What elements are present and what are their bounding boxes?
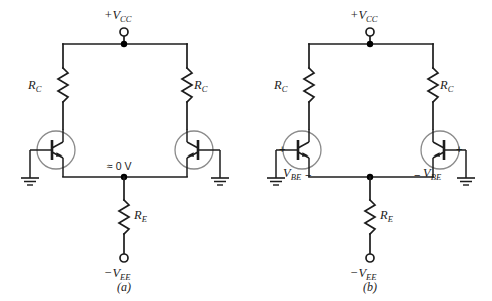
circuit-schematic-svg [0,0,492,301]
circuit-b-group [267,28,475,262]
vee-terminal-b [366,254,374,262]
resistor-re-a [119,200,129,234]
q1-collector-slant-b [298,142,309,148]
resistor-rc-left-b [304,68,314,102]
vbe-left-label-b: VBE [283,167,301,180]
q2-emitter-arrow-b [433,152,439,157]
ground-right-a [211,150,229,185]
polarity-plus-right-b: + [456,144,462,155]
vcc-terminal-a [120,28,128,36]
vee-label-b: −VEE [350,267,377,280]
rc-right-label-a: RC [194,79,207,92]
q2-emitter-arrow-a [187,152,193,157]
q2-collector-slant-a [187,142,198,148]
resistor-rc-right-b [428,68,438,102]
rc-left-label-b: RC [274,79,287,92]
figure-root: +VCC RC RC ≈ 0 V RE −VEE (a) +VCC RC RC … [0,0,492,301]
ground-right-b [457,150,475,185]
re-label-b: RE [380,209,393,222]
q2-collector-slant-b [433,142,444,148]
resistor-rc-right-a [182,68,192,102]
resistor-re-b [365,200,375,234]
vcc-label-a: +VCC [104,9,132,22]
vcc-terminal-b [366,28,374,36]
rc-left-label-a: RC [28,79,41,92]
caption-a: (a) [117,281,131,293]
q1-emitter-arrow-b [302,152,308,157]
vbe-right-label-b: VBE [423,167,441,180]
polarity-plus-left-b: + [279,144,285,155]
emitter-node-voltage-label-a: ≈ 0 V [107,161,131,172]
vee-label-a: −VEE [104,267,131,280]
q1-emitter-arrow-a [56,152,62,157]
re-label-a: RE [134,209,147,222]
rc-right-label-b: RC [440,79,453,92]
ground-left-a [21,150,39,185]
caption-b: (b) [363,281,377,293]
polarity-minus-left-b: − [305,170,311,181]
transistor-q1-a [30,129,75,177]
transistor-q2-a [175,129,220,177]
vcc-node-dot-b [367,41,373,47]
q1-collector-slant-a [52,142,63,148]
circuit-a-group [21,28,229,262]
polarity-minus-right-b: − [414,170,420,181]
vee-terminal-a [120,254,128,262]
vcc-label-b: +VCC [350,9,378,22]
vcc-node-dot-a [121,41,127,47]
resistor-rc-left-a [58,68,68,102]
